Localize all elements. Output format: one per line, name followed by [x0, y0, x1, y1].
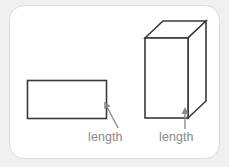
- shape-rectangle: [28, 81, 107, 119]
- shape-rectangular-prism: [145, 21, 206, 118]
- prism-length-label: length: [159, 130, 194, 144]
- prism-front-face: [145, 38, 188, 118]
- rectangle-length-label: length: [88, 130, 123, 144]
- rectangle-length-arrow: [106, 105, 118, 128]
- figure-root: length length: [0, 0, 229, 167]
- prism-right-face: [188, 21, 206, 118]
